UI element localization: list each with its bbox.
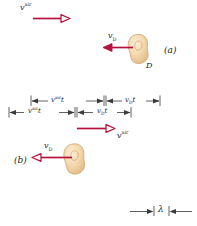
panel-a-label: (a) [164,46,176,55]
doppler-wavefront-figure: vair vD D (a) vairt vDt vairt vDt vair v… [0,0,197,226]
panel-b-detector-velocity-label: vD [44,142,53,150]
panel-a-detector-velocity-label: vD [108,32,117,40]
panel-a-detector-blob [128,34,148,63]
panel-a-air-velocity-arrow [33,15,70,23]
panel-a [31,15,160,106]
panel-b-air-velocity-arrow [77,125,115,133]
panel-a-detector-label: D [146,62,152,70]
panel-b-label: (b) [14,156,27,165]
panel-b [9,107,192,216]
wavelength-label: λ [158,205,164,214]
panel-a-air-velocity-label: vair [20,4,31,12]
panel-b-detector-blob [64,144,85,174]
panel-b-wavefronts [91,127,185,205]
panel-b-air-distance-label: vairt [28,108,41,115]
panel-b-detector-distance-label: vDt [97,108,107,115]
panel-b-air-velocity-label: vair [117,132,128,140]
panel-a-detector-distance-label: vDt [125,97,135,104]
panel-a-air-distance-label: vairt [51,97,64,104]
